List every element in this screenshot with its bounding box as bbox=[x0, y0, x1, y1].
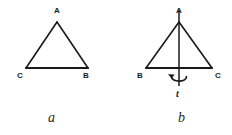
triangle-a-right-edge bbox=[57, 22, 88, 68]
triangle-b-right-vertex-label: C bbox=[215, 71, 221, 80]
rotation-arrow-head bbox=[168, 74, 175, 78]
rotation-axis-label: t bbox=[176, 88, 180, 99]
panel-b-caption: b bbox=[178, 110, 185, 125]
triangle-b-left-edge bbox=[146, 22, 179, 68]
triangle-a-right-vertex-label: B bbox=[83, 71, 89, 80]
panel-b: A B C t b bbox=[137, 6, 221, 125]
panel-a: A C B a bbox=[17, 6, 89, 125]
rotation-arrow-icon bbox=[168, 74, 187, 81]
triangle-b-apex-label: A bbox=[176, 6, 182, 15]
panel-a-caption: a bbox=[48, 110, 55, 125]
triangle-a-left-vertex-label: C bbox=[17, 71, 23, 80]
geometry-figure: A C B a A B C t b bbox=[0, 0, 232, 135]
triangle-a-left-edge bbox=[26, 22, 57, 68]
triangle-b-right-edge bbox=[179, 22, 212, 68]
triangle-a-apex-label: A bbox=[54, 6, 60, 15]
figure-canvas: A C B a A B C t b bbox=[0, 0, 232, 135]
triangle-b-left-vertex-label: B bbox=[137, 71, 143, 80]
